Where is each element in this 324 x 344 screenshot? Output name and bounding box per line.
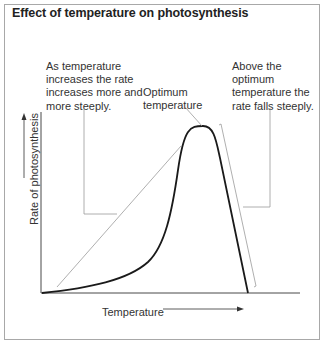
- y-arrow-head-icon: [22, 113, 27, 120]
- falling-guide-line: [219, 124, 256, 287]
- rising-connector: [84, 108, 117, 214]
- temperature-curve-diagram: [0, 0, 324, 344]
- optimum-connector: [185, 107, 202, 126]
- x-axis-label: Temperature: [102, 306, 164, 318]
- x-arrow-head-icon: [237, 307, 244, 312]
- rate-curve: [42, 126, 248, 293]
- y-axis-label: Rate of photosynthesis: [28, 113, 40, 225]
- rising-guide-line: [57, 146, 181, 287]
- falling-connector: [243, 108, 270, 207]
